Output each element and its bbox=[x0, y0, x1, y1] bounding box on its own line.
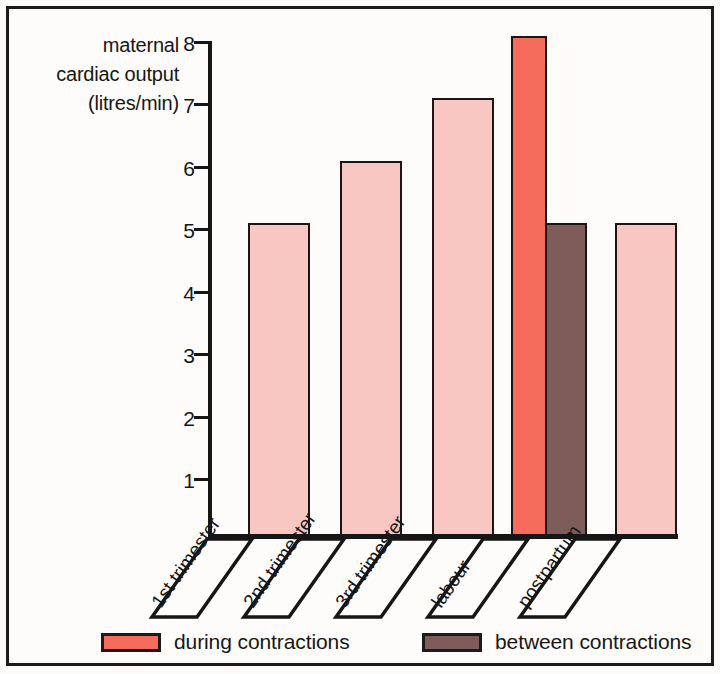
y-axis-title-line-3: (litres/min) bbox=[29, 89, 179, 118]
y-tick-label-1: 1 bbox=[169, 470, 195, 491]
y-tick-mark-4 bbox=[194, 291, 210, 294]
x-axis-line bbox=[208, 534, 678, 539]
legend-label-during-contractions: during contractions bbox=[174, 630, 350, 654]
y-tick-mark-5 bbox=[194, 228, 210, 231]
y-axis-line bbox=[208, 41, 212, 538]
category-label-3: labour bbox=[427, 555, 475, 611]
y-tick-mark-3 bbox=[194, 353, 210, 356]
y-tick-mark-7 bbox=[194, 103, 210, 106]
legend-item-during-contractions: during contractions bbox=[101, 630, 350, 654]
y-tick-mark-1 bbox=[194, 478, 210, 481]
y-tick-mark-6 bbox=[194, 166, 210, 169]
y-axis-title-line-1: maternal bbox=[29, 31, 179, 60]
chart-page: maternal cardiac output (litres/min) 8 7… bbox=[0, 0, 720, 674]
category-box-3 bbox=[428, 539, 528, 617]
category-box-1 bbox=[244, 539, 344, 617]
category-label-0: 1st trimester bbox=[147, 513, 225, 611]
chart-legend: during contractions between contractions bbox=[9, 625, 717, 665]
y-axis-title-line-2: cardiac output bbox=[29, 60, 179, 89]
bar-chart: maternal cardiac output (litres/min) 8 7… bbox=[9, 9, 717, 669]
category-box-0 bbox=[152, 539, 252, 617]
y-tick-label-3: 3 bbox=[169, 345, 195, 366]
bar-3rd-trimester bbox=[432, 98, 494, 538]
legend-swatch-during-contractions bbox=[101, 633, 161, 652]
category-box-2 bbox=[336, 539, 436, 617]
y-tick-label-2: 2 bbox=[169, 408, 195, 429]
category-box-4 bbox=[520, 539, 620, 617]
bar-1st-trimester bbox=[248, 223, 310, 538]
y-tick-label-8: 8 bbox=[169, 33, 195, 54]
bar-2nd-trimester bbox=[340, 161, 402, 538]
legend-item-between-contractions: between contractions bbox=[422, 630, 691, 654]
bar-labour-during-contractions bbox=[511, 36, 547, 538]
y-tick-label-4: 4 bbox=[169, 283, 195, 304]
bar-labour-between-contractions bbox=[545, 223, 587, 538]
legend-swatch-between-contractions bbox=[422, 633, 482, 652]
y-tick-label-7: 7 bbox=[169, 95, 195, 116]
y-tick-label-5: 5 bbox=[169, 220, 195, 241]
y-tick-mark-2 bbox=[194, 416, 210, 419]
page-frame-border: maternal cardiac output (litres/min) 8 7… bbox=[6, 6, 714, 666]
y-axis-title: maternal cardiac output (litres/min) bbox=[29, 31, 179, 118]
legend-label-between-contractions: between contractions bbox=[495, 630, 691, 654]
bar-postpartum bbox=[615, 223, 677, 538]
y-tick-label-6: 6 bbox=[169, 158, 195, 179]
y-tick-mark-8 bbox=[194, 41, 210, 44]
